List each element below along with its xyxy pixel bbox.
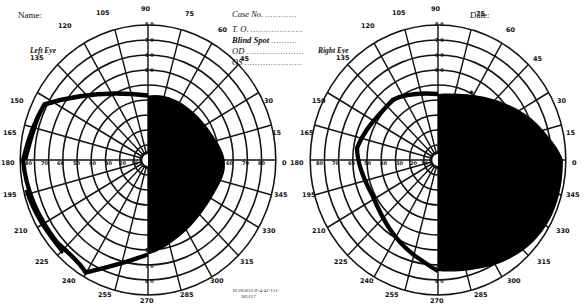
svg-text:60: 60 — [348, 160, 355, 166]
annotation-asterisk: * — [469, 89, 474, 99]
svg-text:75: 75 — [185, 10, 195, 18]
svg-text:180: 180 — [290, 159, 304, 167]
svg-text:135: 135 — [336, 54, 350, 62]
svg-text:105: 105 — [96, 9, 110, 17]
svg-text:315: 315 — [537, 258, 551, 266]
svg-text:90: 90 — [431, 5, 441, 13]
svg-text:315: 315 — [240, 258, 254, 266]
svg-text:15: 15 — [566, 129, 576, 137]
svg-text:80: 80 — [258, 160, 265, 166]
svg-text:300: 300 — [507, 277, 521, 285]
svg-text:90: 90 — [141, 5, 151, 13]
svg-text:80: 80 — [25, 160, 32, 166]
svg-text:255: 255 — [385, 291, 399, 299]
svg-text:30: 30 — [396, 160, 403, 166]
svg-text:70: 70 — [332, 160, 339, 166]
svg-text:70: 70 — [242, 160, 249, 166]
svg-text:150: 150 — [312, 97, 326, 105]
svg-text:240: 240 — [62, 277, 76, 285]
svg-text:7 0: 7 0 — [145, 37, 154, 43]
visual-field-charts: 90 105 75 120 60 135 45 150 30 165 15 18… — [0, 0, 588, 306]
svg-text:150: 150 — [10, 97, 24, 105]
svg-text:20: 20 — [410, 160, 417, 166]
svg-text:40: 40 — [89, 160, 96, 166]
svg-text:165: 165 — [300, 129, 314, 137]
svg-text:8 0: 8 0 — [145, 278, 154, 284]
svg-text:45: 45 — [533, 55, 543, 63]
svg-text:285: 285 — [180, 291, 194, 299]
svg-text:330: 330 — [556, 227, 570, 235]
svg-text:7 0: 7 0 — [435, 263, 444, 269]
right-field-defect — [438, 94, 563, 272]
svg-text:240: 240 — [360, 277, 374, 285]
svg-text:5: 5 — [145, 247, 149, 253]
svg-text:50: 50 — [73, 160, 80, 166]
svg-text:15: 15 — [272, 129, 282, 137]
svg-text:8 0: 8 0 — [435, 278, 444, 284]
svg-text:7 0: 7 0 — [435, 37, 444, 43]
svg-text:6 0: 6 0 — [145, 52, 154, 58]
svg-text:20: 20 — [119, 160, 126, 166]
svg-text:10: 10 — [131, 160, 138, 166]
svg-text:330: 330 — [262, 227, 276, 235]
svg-text:30: 30 — [557, 97, 567, 105]
svg-text:60: 60 — [57, 160, 64, 166]
svg-text:120: 120 — [361, 22, 375, 30]
svg-text:300: 300 — [210, 277, 224, 285]
svg-text:210: 210 — [312, 227, 326, 235]
svg-text:7 0: 7 0 — [145, 263, 154, 269]
svg-text:180: 180 — [1, 159, 15, 167]
svg-text:30: 30 — [105, 160, 112, 166]
svg-text:195: 195 — [3, 191, 17, 199]
svg-text:120: 120 — [58, 22, 72, 30]
svg-text:8 0: 8 0 — [435, 21, 444, 27]
svg-text:345: 345 — [566, 191, 580, 199]
svg-text:270: 270 — [140, 297, 154, 305]
svg-text:210: 210 — [14, 227, 28, 235]
svg-text:45: 45 — [240, 55, 250, 63]
svg-text:285: 285 — [474, 291, 488, 299]
svg-text:195: 195 — [302, 191, 316, 199]
svg-text:8 0: 8 0 — [145, 21, 154, 27]
svg-text:60: 60 — [218, 26, 228, 34]
svg-text:225: 225 — [35, 258, 49, 266]
svg-text:255: 255 — [98, 291, 112, 299]
svg-text:0: 0 — [282, 159, 287, 167]
svg-text:5 0: 5 0 — [145, 67, 154, 73]
svg-text:165: 165 — [3, 129, 17, 137]
svg-text:40: 40 — [380, 160, 387, 166]
svg-text:105: 105 — [392, 9, 406, 17]
svg-text:6 0: 6 0 — [435, 52, 444, 58]
svg-text:0: 0 — [572, 159, 577, 167]
svg-text:75: 75 — [476, 10, 486, 18]
svg-text:60: 60 — [226, 160, 233, 166]
svg-text:50: 50 — [364, 160, 371, 166]
svg-text:345: 345 — [274, 191, 288, 199]
svg-text:10: 10 — [421, 160, 428, 166]
svg-text:70: 70 — [41, 160, 48, 166]
svg-text:5 0: 5 0 — [435, 67, 444, 73]
svg-text:225: 225 — [334, 258, 348, 266]
svg-text:30: 30 — [264, 97, 274, 105]
svg-text:270: 270 — [430, 297, 444, 305]
svg-text:80: 80 — [316, 160, 323, 166]
svg-text:135: 135 — [30, 54, 44, 62]
svg-text:60: 60 — [506, 26, 516, 34]
